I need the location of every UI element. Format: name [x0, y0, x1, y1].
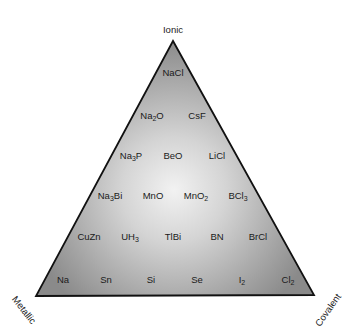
compound-label: LiCl — [209, 151, 225, 161]
compound-label: MnO — [143, 191, 164, 201]
compound-label: BCl3 — [228, 191, 247, 201]
bonding-triangle-diagram: Ionic Metallic Covalent NaClNa2OCsFNa3PB… — [0, 0, 351, 335]
compound-label: Cl2 — [282, 275, 295, 285]
compound-label: Na2O — [140, 111, 163, 121]
compound-label: UH3 — [121, 232, 139, 242]
compound-label: TlBi — [165, 232, 181, 242]
compound-label: BN — [210, 232, 223, 242]
compound-label: Na3Bi — [98, 191, 123, 201]
compound-label: Si — [147, 275, 155, 285]
compound-label: BrCl — [249, 232, 267, 242]
triangle-graphic — [0, 0, 351, 335]
compound-label: Na3P — [120, 151, 142, 161]
compound-label: CsF — [188, 111, 205, 121]
compound-label: Na — [57, 275, 69, 285]
triangle-shape — [36, 41, 314, 296]
compound-label: I2 — [239, 275, 246, 285]
compound-label: CuZn — [77, 232, 100, 242]
compound-label: NaCl — [162, 68, 183, 78]
compound-label: Sn — [100, 275, 112, 285]
compound-label: BeO — [163, 151, 182, 161]
compound-label: Se — [191, 275, 203, 285]
vertex-label-ionic: Ionic — [163, 25, 183, 35]
compound-label: MnO2 — [184, 191, 209, 201]
